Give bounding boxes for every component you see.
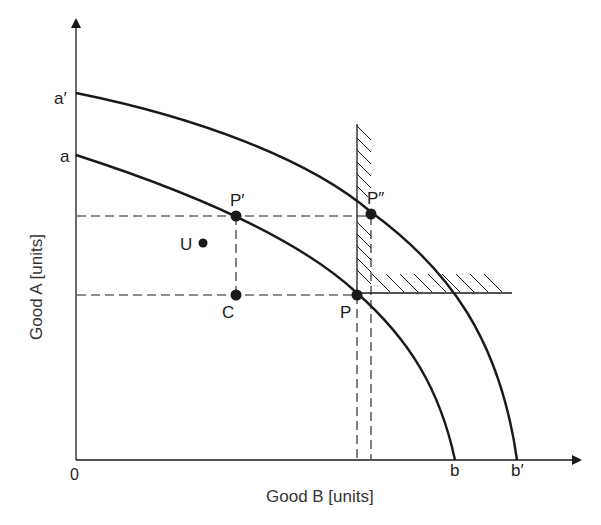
dashed-guides (77, 216, 371, 459)
x-axis-title: Good B [units] (266, 487, 374, 506)
label-u: U (180, 235, 192, 254)
hatched-constraint-horizontal (357, 274, 512, 293)
label-b: b (450, 461, 459, 480)
label-a-prime: a′ (54, 89, 67, 108)
y-axis-title: Good A [units] (27, 234, 46, 340)
inner-ppf-curve (76, 155, 455, 460)
label-p-prime: P′ (230, 191, 245, 210)
point-u (199, 239, 208, 248)
ppf-diagram: a′ a 0 b b′ P′ C P P″ U Good B [units] G… (0, 0, 601, 525)
point-p-prime (231, 211, 242, 222)
point-c (231, 290, 242, 301)
outer-ppf-curve (76, 93, 517, 460)
label-origin: 0 (70, 466, 79, 483)
label-a: a (60, 147, 70, 166)
label-b-prime: b′ (511, 461, 524, 480)
point-p (352, 290, 363, 301)
point-p-double-prime (366, 209, 377, 220)
label-p-double-prime: P″ (367, 189, 384, 208)
label-p: P (340, 303, 351, 322)
label-c: C (222, 303, 234, 322)
